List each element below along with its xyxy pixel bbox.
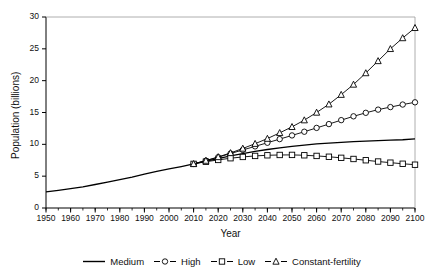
- legend-label: High: [181, 256, 201, 267]
- y-tick-label: 10: [13, 139, 39, 148]
- legend-label: Low: [238, 256, 255, 267]
- legend-item-high[interactable]: High: [153, 256, 201, 267]
- y-tick-label: 30: [13, 12, 39, 21]
- legend-item-constant-fertility[interactable]: Constant-fertility: [264, 256, 361, 267]
- y-tick-label: 15: [13, 108, 39, 117]
- legend-marker-line: [82, 256, 106, 267]
- legend-marker-circle: [153, 256, 177, 267]
- y-tick-label: 20: [13, 76, 39, 85]
- plot-area: [0, 0, 443, 273]
- y-tick-label: 5: [13, 171, 39, 180]
- chart-legend: MediumHighLowConstant-fertility: [0, 252, 443, 270]
- x-tick-label: 2100: [398, 214, 432, 223]
- legend-item-medium[interactable]: Medium: [82, 256, 144, 267]
- y-tick-label: 25: [13, 44, 39, 53]
- population-projection-chart: Population (billions) Year MediumHighLow…: [0, 0, 443, 273]
- legend-marker-triangle: [264, 256, 288, 267]
- legend-marker-square: [210, 256, 234, 267]
- legend-item-low[interactable]: Low: [210, 256, 255, 267]
- y-tick-label: 0: [13, 203, 39, 212]
- legend-label: Medium: [110, 256, 144, 267]
- legend-label: Constant-fertility: [292, 256, 361, 267]
